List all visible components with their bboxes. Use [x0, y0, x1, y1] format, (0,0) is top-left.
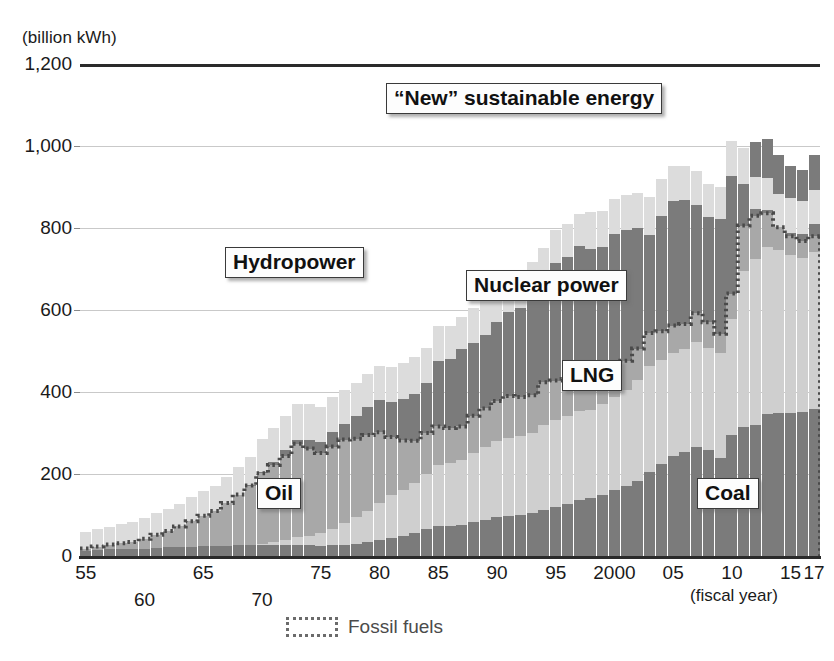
bar-segment-oil [92, 547, 103, 551]
bar-segment-lng [421, 474, 432, 529]
bar-segment-nuclear [738, 184, 749, 226]
bar-segment-oil [809, 236, 820, 252]
bar-1993 [527, 262, 538, 556]
bar-1986 [445, 326, 456, 556]
fossil-fuels-swatch-icon [286, 617, 338, 637]
bar-segment-hydro [198, 491, 209, 516]
bar-segment-oil [221, 503, 232, 546]
bar-segment-hydro [233, 467, 244, 494]
x-tick-label-95: 95 [545, 562, 566, 584]
bar-segment-coal [679, 452, 690, 556]
bar-segment-hydro [174, 504, 185, 527]
bar-1976 [327, 397, 338, 556]
callout-lng: LNG [562, 360, 622, 391]
bar-segment-oil [104, 545, 115, 550]
bar-segment-lng [292, 537, 303, 544]
bar-segment-nuclear [703, 217, 714, 323]
bar-segment-lng [773, 250, 784, 413]
bar-segment-hydro [750, 177, 761, 209]
x-tick-label-10: 10 [721, 562, 742, 584]
bar-segment-oil [480, 408, 491, 447]
bar-segment-lng [609, 397, 620, 490]
bar-1959 [127, 522, 138, 556]
bar-segment-lng [398, 490, 409, 536]
bar-segment-lng [703, 348, 714, 451]
bar-1958 [116, 524, 127, 556]
bar-segment-oil [738, 226, 749, 271]
bar-segment-oil [409, 441, 420, 484]
bar-segment-lng [562, 416, 573, 504]
bar-1966 [210, 485, 221, 556]
bar-segment-oil [139, 539, 150, 549]
legend-label-fossil-fuels: Fossil fuels [348, 616, 443, 638]
bar-segment-coal [315, 546, 326, 556]
bar-segment-coal [245, 545, 256, 556]
bar-segment-lng [268, 542, 279, 545]
bar-segment-coal [515, 515, 526, 556]
bar-segment-nuclear [339, 424, 350, 440]
bar-segment-oil [679, 324, 690, 349]
bar-1985 [433, 326, 444, 556]
bar-segment-oil [703, 322, 714, 347]
x-tick-label-60: 60 [134, 589, 155, 611]
bar-segment-oil [362, 435, 373, 510]
bar-segment-oil [538, 382, 549, 425]
bar-segment-coal [609, 490, 620, 556]
bar-segment-coal [491, 517, 502, 556]
bar-segment-hydro [679, 166, 690, 200]
bar-segment-hydro [715, 187, 726, 219]
bar-segment-oil [621, 361, 632, 391]
bar-segment-lng [433, 465, 444, 526]
bar-segment-hydro [327, 397, 338, 431]
y-tick-label-400: 400 [40, 381, 72, 403]
bar-segment-nuclear [315, 442, 326, 453]
bar-segment-nuclear [280, 450, 291, 456]
bar-segment-oil [374, 432, 385, 503]
bar-segment-coal [503, 516, 514, 556]
callout-oil: Oil [257, 478, 301, 509]
bar-segment-lng [468, 453, 479, 523]
bar-segment-coal [621, 486, 632, 556]
bar-segment-lng [362, 511, 373, 543]
bar-segment-oil [797, 241, 808, 257]
bar-segment-hydro [151, 513, 162, 534]
bar-2013 [762, 139, 773, 556]
bar-segment-lng [750, 259, 761, 425]
bar-segment-hydro [163, 509, 174, 531]
y-tick-label-0: 0 [61, 545, 72, 567]
bar-segment-lng [679, 349, 690, 452]
bar-segment-oil [632, 349, 643, 380]
bar-segment-coal [550, 507, 561, 556]
bar-segment-nuclear [421, 383, 432, 433]
bar-segment-oil [386, 437, 397, 495]
bar-segment-oil [210, 511, 221, 546]
bar-segment-nuclear [656, 216, 667, 332]
y-axis-tick-labels: 02004006008001,0001,200 [0, 64, 80, 556]
bar-segment-hydro [456, 317, 467, 350]
bar-segment-nuclear [386, 402, 397, 437]
x-tick-label-05: 05 [663, 562, 684, 584]
bar-segment-coal [574, 500, 585, 556]
bar-2016 [797, 170, 808, 556]
bar-segment-coal [762, 414, 773, 556]
bar-segment-oil [550, 381, 561, 420]
y-tick-label-600: 600 [40, 299, 72, 321]
bar-segment-lng [668, 353, 679, 456]
bar-segment-hydro [797, 201, 808, 234]
bar-segment-coal [445, 526, 456, 556]
bar-segment-hydro [186, 497, 197, 521]
bar-segment-oil [233, 495, 244, 546]
bar-segment-oil [515, 397, 526, 436]
bar-segment-lng [339, 523, 350, 544]
bar-2006 [679, 166, 690, 556]
y-tick-label-1200: 1,200 [24, 53, 72, 75]
bar-segment-coal [362, 542, 373, 556]
bar-segment-coal [480, 520, 491, 556]
bar-segment-lng [762, 247, 773, 414]
bar-segment-coal [257, 545, 268, 556]
bar-segment-lng [597, 404, 608, 494]
bar-segment-lng [257, 544, 268, 545]
bar-segment-nuclear [809, 224, 820, 237]
bar-segment-hydro [362, 374, 373, 408]
bar-segment-lng [409, 483, 420, 532]
